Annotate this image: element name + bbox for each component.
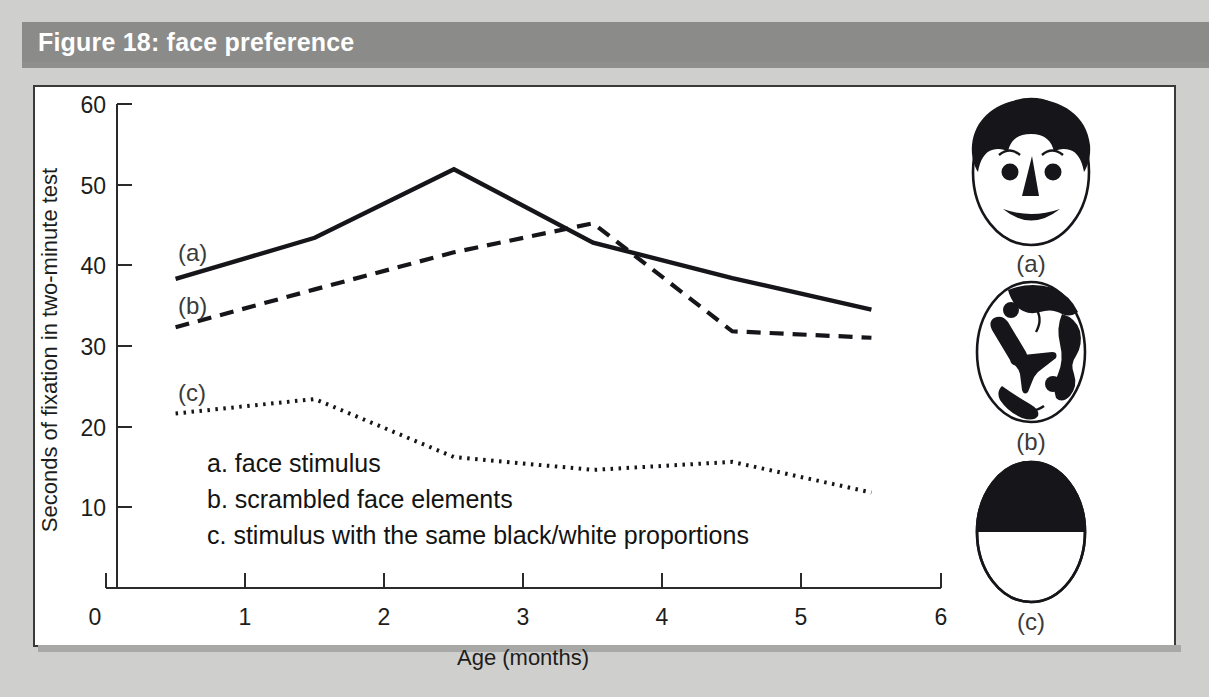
x-tick-label-1: 1 [239, 604, 252, 630]
legend-entry-a: a. face stimulus [207, 449, 381, 477]
stimulus-caption-a: (a) [1016, 250, 1045, 277]
x-axis-ticks [106, 573, 941, 588]
stimulus-caption-b: (b) [1016, 428, 1045, 455]
y-tick-label-20: 20 [80, 415, 106, 441]
y-axis-tick-labels: 60 50 40 30 20 10 [80, 92, 106, 521]
legend-entry-b: b. scrambled face elements [207, 485, 513, 513]
eye-left [1002, 164, 1019, 181]
legend-entry-c: c. stimulus with the same black/white pr… [207, 521, 749, 549]
x-axis-tick-labels: 0 1 2 3 4 5 6 [89, 604, 948, 630]
x-axis-title: Age (months) [457, 645, 589, 670]
stimulus-face-b: (b) [977, 282, 1085, 455]
y-tick-label-10: 10 [80, 495, 106, 521]
y-axis-title: Seconds of fixation in two-minute test [37, 168, 62, 532]
chart-axes [106, 104, 941, 588]
series-line-a [176, 169, 872, 309]
stimulus-face-c: (c) [975, 460, 1087, 635]
curve-tag-a: (a) [178, 239, 207, 266]
y-tick-label-30: 30 [80, 334, 106, 360]
x-tick-label-5: 5 [795, 604, 808, 630]
curve-tag-b: (b) [178, 292, 207, 319]
y-axis-ticks [117, 104, 132, 507]
x-tick-label-0: 0 [89, 604, 102, 630]
x-tick-label-3: 3 [517, 604, 530, 630]
y-tick-label-40: 40 [80, 253, 106, 279]
face-preference-chart: 60 50 40 30 20 10 0 1 2 3 4 5 6 Age (mon… [0, 0, 1209, 697]
eye-right [1045, 164, 1062, 181]
series-line-c [176, 399, 872, 492]
x-tick-label-4: 4 [656, 604, 669, 630]
curve-tag-c: (c) [178, 379, 206, 406]
y-tick-label-50: 50 [80, 173, 106, 199]
x-tick-label-6: 6 [935, 604, 948, 630]
x-tick-label-2: 2 [378, 604, 391, 630]
black-half-shape [975, 460, 1087, 532]
series-line-b [176, 223, 872, 337]
chart-series [176, 169, 872, 492]
y-tick-label-60: 60 [80, 92, 106, 118]
figure-page: Figure 18: face preference [0, 0, 1209, 697]
curve-tags: (a) (b) (c) [178, 239, 207, 406]
stimulus-caption-c: (c) [1017, 608, 1045, 635]
stimulus-face-a: (a) [972, 99, 1090, 277]
